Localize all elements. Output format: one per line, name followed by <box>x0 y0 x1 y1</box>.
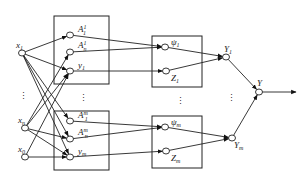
label-xn: xn <box>17 115 25 126</box>
edge-A1m-psim <box>73 121 162 127</box>
edge-x1-ym <box>23 56 68 154</box>
edge-xn-y1 <box>27 74 68 126</box>
node-ym <box>67 154 74 160</box>
label-Z1: Z1 <box>171 73 179 84</box>
node-An1 <box>67 49 74 55</box>
edge-Zm-Ym <box>169 139 229 151</box>
node-Zm <box>163 148 170 154</box>
node-A11 <box>67 32 74 38</box>
edges <box>23 35 296 157</box>
node-A1m <box>67 118 74 124</box>
node-Anm <box>67 136 74 142</box>
edge-Y1-Y <box>228 59 257 89</box>
neural-network-diagram: x1xnx0A11A1ny1Am1Amnymψ1Z1ψmZmY1YmY ⋮ ⋮ … <box>0 0 308 181</box>
label-Zm: Zm <box>171 153 181 164</box>
label-A11: A11 <box>77 24 87 36</box>
label-A1m: Am1 <box>77 110 89 122</box>
label-Y1: Y1 <box>224 44 232 55</box>
edge-psim-Ym <box>168 127 229 137</box>
ellipsis-right: ⋮ <box>176 96 185 106</box>
node-psi1 <box>162 44 169 50</box>
label-y1: y1 <box>77 60 85 71</box>
label-Ym: Ym <box>234 140 244 151</box>
ellipsis-inputs: ⋮ <box>19 91 28 101</box>
edge-psi1-Y1 <box>168 47 223 56</box>
node-y1 <box>67 68 74 74</box>
node-psim <box>162 124 169 130</box>
label-x1: x1 <box>15 40 23 51</box>
edge-Z1-Y1 <box>169 58 223 71</box>
label-psi1: ψ1 <box>171 37 180 48</box>
edge-ym-Zm <box>73 151 163 157</box>
node-Z1 <box>163 68 170 74</box>
label-An1: A1n <box>77 40 87 52</box>
label-psim: ψm <box>171 117 182 128</box>
label-ym: ym <box>77 146 87 157</box>
edge-x1-A11 <box>25 36 67 52</box>
ellipsis-left: ⋮ <box>79 93 88 103</box>
node-Y <box>256 89 263 95</box>
label-x0: x0 <box>17 144 25 155</box>
label-Y: Y <box>257 78 263 88</box>
edge-Ym-Y <box>234 95 258 135</box>
ellipsis-aggregators: ⋮ <box>227 93 236 103</box>
